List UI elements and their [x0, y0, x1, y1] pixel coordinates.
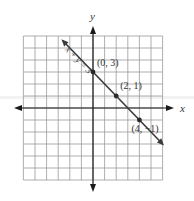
- scan-band: [0, 96, 194, 99]
- x-axis-arrow-left-icon: [14, 105, 22, 111]
- data-point: [91, 70, 96, 75]
- x-axis-label: x: [179, 102, 185, 114]
- data-point: [114, 94, 119, 99]
- data-point-label: (2, 1): [120, 80, 142, 92]
- chart: x y x + y = 3 (0, 3)(2, 1)(4, −1): [0, 0, 194, 201]
- data-point: [137, 118, 142, 123]
- data-point-label: (0, 3): [97, 57, 119, 69]
- data-point-label: (4, −1): [131, 123, 158, 135]
- axes: x y: [14, 10, 185, 192]
- y-axis-arrow-down-icon: [90, 184, 96, 192]
- x-axis-arrow-right-icon: [166, 105, 174, 111]
- y-axis-arrow-up-icon: [90, 26, 96, 34]
- y-axis-label: y: [89, 10, 95, 22]
